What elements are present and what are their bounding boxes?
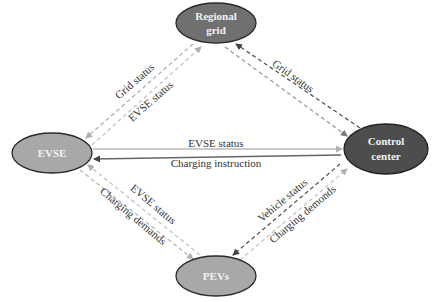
node-control-center-label-1: Control [368, 135, 404, 147]
node-regional-grid-label-1: Regional [195, 10, 237, 22]
edge-grid-to-control [225, 47, 347, 136]
node-control-center: Control center [344, 124, 428, 174]
label-charging-demonds: Charging demonds [267, 183, 338, 246]
node-regional-grid-label-2: grid [206, 24, 226, 36]
node-evse-label: EVSE [38, 147, 67, 159]
label-grid-status-right: Grid status [270, 57, 316, 95]
node-pevs-label: PEVs [203, 270, 230, 282]
edge-control-to-pevs [233, 164, 340, 255]
diagram-canvas: Grid status EVSE status Grid status EVSE… [0, 0, 433, 302]
node-regional-grid: Regional grid [176, 3, 256, 43]
label-charging-instruction: Charging instruction [171, 157, 262, 169]
node-evse: EVSE [12, 133, 92, 173]
node-control-center-label-2: center [371, 150, 400, 162]
edge-grid-to-evse [86, 44, 193, 138]
edge-pevs-to-evse [88, 165, 200, 255]
node-pevs: PEVs [176, 256, 256, 296]
label-evse-status-center: EVSE status [188, 137, 243, 149]
